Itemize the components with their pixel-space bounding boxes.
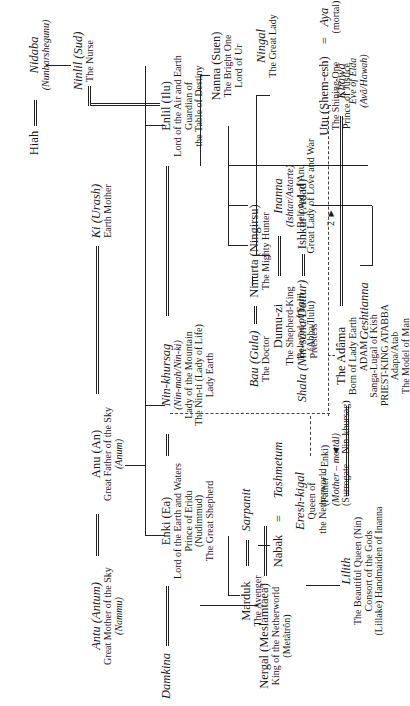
marriage-line-bau-ninurta [254, 306, 257, 324]
line-to-utu [256, 95, 270, 96]
node-nanna: Nanna (Suen) The Bright One Lord of Ur [210, 26, 244, 106]
node-nabak: Nabak [272, 526, 285, 576]
equals-utu-aya: = [318, 37, 333, 44]
node-ninlil: Ninlil (Sud) The Nurse [72, 26, 96, 96]
marriage-line-antu-anu [96, 514, 99, 556]
node-anu: Anu (An) Great Father of the Sky (Anum) [90, 394, 124, 514]
line-to-inanna [256, 255, 270, 256]
node-nergal: Nergal (Meslamtaea) King of the Netherwo… [258, 576, 292, 696]
node-hiah: Hiah [28, 128, 41, 158]
node-enki: Enki (Ea) Lord of the Earth and Waters P… [160, 456, 215, 586]
line-enlil-ninurta [228, 205, 248, 206]
line-nanna-children-bar [256, 96, 257, 256]
marriage-line-enki-ninkhursag [166, 434, 169, 456]
node-adama: The Adâma Born of Lady Earth ADAM Sanga-… [335, 306, 410, 406]
marriage-line-shala-ishkur [302, 254, 305, 276]
line-anu-children-bar [145, 66, 146, 536]
marriage-line-enlil-ninlil [90, 103, 160, 106]
marriage-line-adama-khawa [340, 116, 343, 306]
line-enlil-ninurta-2 [228, 245, 248, 246]
dashed-line-adama [328, 355, 335, 356]
marriage-line-lilith-adama [346, 406, 349, 496]
node-enlil: Enlil (Ilu) Lord of the Air and Earth Gu… [160, 46, 205, 166]
node-damkina: Damkina [160, 646, 173, 706]
equals-nabak-tashmetum: = [272, 515, 287, 522]
marriage-line-nergal-ereshkigal [264, 526, 267, 576]
node-khawa: Khâwâ Eve of Elda (Avâ/Hawah) [335, 46, 369, 116]
dashed-line-right [328, 105, 336, 106]
node-bau: Bau (Gula) The Doctor [248, 324, 272, 394]
marriage-line-ninkhursag-enlil [166, 166, 169, 316]
line-nergal-lilith [306, 585, 340, 586]
node-ereshkigal: Eresh-kigal Queen of the Netherworld [294, 456, 328, 546]
line-enlil-children-bar [228, 126, 229, 246]
marriage-line-hiah-nidaba [34, 100, 37, 126]
line-anu-nergal [200, 605, 258, 606]
node-sarpanit: Sarpanit [240, 480, 253, 540]
line-enki-children-bar [228, 536, 229, 596]
node-dumuzi: Dumu-zi The Shepherd-King Beloved of Enl… [272, 276, 317, 376]
node-ninurta: Ninurta (Ningirsu) The Mighty Hunter [248, 196, 272, 306]
node-ki: Ki (Urash) Earth Mother [90, 176, 114, 246]
dashed-line-parentage [310, 416, 311, 456]
dashed-line-enki-adama [170, 413, 330, 414]
genealogy-diagram: Antu (Antum) Great Mother of the Sky (Na… [0, 0, 410, 706]
marriage-line-damkina-enki [166, 586, 169, 646]
marriage-line-anu-ki [96, 246, 99, 394]
node-inanna: Inanna (Ishtar/Astarte) Beloved of Anu G… [272, 136, 317, 256]
node-lilith: Lilith The Beautiful Queen (Nin) Consort… [340, 496, 385, 646]
marker-2: 2 ► [325, 209, 336, 226]
node-tashmetum: Tashmetum [272, 430, 285, 510]
line-anu-children [125, 465, 145, 466]
node-antu: Antu (Antum) Great Mother of the Sky (Na… [90, 556, 124, 676]
marriage-line-marduk-sarpanit [246, 540, 249, 566]
node-nidaba: Nidaba (Nunbarshegunu) [28, 10, 52, 100]
line-to-geshtianna [360, 265, 372, 266]
line-enlil-nanna-bar [200, 76, 201, 166]
node-ningal: Ningal The Great Lady [255, 6, 279, 86]
node-ninkhursag: Nin-khursag (Nin-mah/Nin-ki) Lady of the… [160, 316, 215, 434]
marker-1: ◄ 1 [330, 439, 341, 456]
line-geshtianna-bar [372, 206, 373, 266]
dashed-line-top [328, 106, 329, 416]
node-aya: Aya (mortal) [318, 0, 342, 34]
line-nidaba-ninlil [46, 65, 71, 66]
